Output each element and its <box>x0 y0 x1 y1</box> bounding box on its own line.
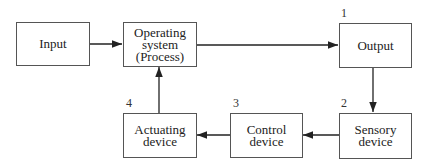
sensory-number: 2 <box>341 96 347 111</box>
operating-system-node: Operating system (Process) <box>123 22 197 67</box>
control-device-node: Control device <box>230 113 303 158</box>
sensory-label-line2: device <box>355 136 397 148</box>
actuating-device-node: Actuating device <box>123 113 197 158</box>
input-label: Input <box>39 38 66 50</box>
actuating-number: 4 <box>126 96 132 111</box>
output-node: Output <box>339 23 412 68</box>
sensory-device-node: Sensory device <box>339 113 412 159</box>
actuating-label-line2: device <box>134 136 185 148</box>
operating-label-line3: (Process) <box>134 51 186 63</box>
input-node: Input <box>16 22 90 66</box>
output-label: Output <box>357 40 393 52</box>
control-number: 3 <box>233 96 239 111</box>
control-label-line2: device <box>247 136 287 148</box>
output-number: 1 <box>341 6 347 21</box>
